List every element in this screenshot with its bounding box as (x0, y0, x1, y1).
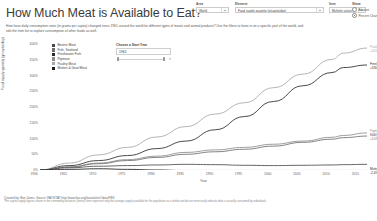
filter-bar: Area World Element Food supply quantity … (196, 2, 377, 24)
show-option-percent-change-label: Percent Change (359, 14, 377, 18)
x-axis-tick-label: 1970 (89, 172, 96, 176)
series-annotation-label: Fish, Seafood (370, 133, 377, 137)
chevron-down-icon[interactable] (221, 8, 228, 12)
y-axis-tick-label: 350% (30, 58, 38, 62)
show-option-amount[interactable]: Amount (352, 7, 377, 12)
radio-icon-percent-change[interactable] (352, 13, 357, 18)
x-axis-tick-label: 1980 (147, 172, 154, 176)
chart-lines (40, 38, 367, 170)
x-axis-tick-label: 1985 (176, 172, 183, 176)
series-annotation: Poultry Meat+422.3% (370, 45, 377, 53)
filter-element-value: Food supply quantity (g/capita/day) (238, 9, 286, 13)
x-axis-tick-label: 1995 (235, 172, 242, 176)
series-annotation: Fish, Seafood+107.6% (370, 133, 377, 141)
footer-note: *Per capita supply figures shown in the … (4, 200, 304, 204)
x-axis-tick-label: 1990 (206, 172, 213, 176)
plot-area: Poultry Meat+422.3%Freshwater Fish+330.9… (40, 38, 367, 170)
x-axis-tick-label: 1975 (118, 172, 125, 176)
meat-consumption-dashboard: How Much Meat is Available to Eat? How h… (0, 0, 377, 221)
series-annotation: Mutton & Goat Meat-2.4% (370, 167, 377, 175)
filter-area-label: Area (196, 2, 229, 6)
series-line[interactable] (40, 48, 367, 170)
x-axis-title: Year (40, 179, 367, 183)
series-annotation-value: +330.9% (370, 66, 377, 70)
show-radio-group: Show Amount Percent Change (352, 2, 377, 18)
x-axis-tick-label: 2005 (293, 172, 300, 176)
x-axis-tick-label: 2000 (264, 172, 271, 176)
chevron-down-icon[interactable] (316, 8, 323, 12)
line-chart: Food supply quantity (g/capita/day) 0%50… (0, 38, 377, 188)
y-axis-ticks: 0%50%100%150%200%250%300%350%400% (0, 38, 38, 170)
y-axis-tick-label: 400% (30, 42, 38, 46)
page-title: How Much Meat is Available to Eat? (6, 6, 202, 20)
series-annotation-label: Freshwater Fish (370, 62, 377, 66)
series-annotation-value: +107.6% (370, 137, 377, 141)
filter-element-select[interactable]: Food supply quantity (g/capita/day) (235, 7, 324, 13)
filter-element-label: Element (235, 2, 324, 6)
y-axis-tick-label: 300% (30, 74, 38, 78)
show-label: Show (352, 2, 377, 6)
filter-item-value: Multiple values (332, 9, 352, 13)
x-axis-tick-label: 1960 (31, 172, 38, 176)
series-annotation-label: Poultry Meat (370, 45, 377, 49)
series-annotation-value: -2.4% (370, 171, 377, 175)
show-option-amount-label: Amount (359, 8, 370, 12)
y-axis-tick-label: 250% (30, 90, 38, 94)
filter-area: Area World (196, 2, 229, 13)
y-axis-tick-label: 100% (30, 137, 38, 141)
footer: Created by: Ben Jones. Source: FAOSTAT h… (4, 196, 304, 204)
filter-area-value: World (199, 9, 207, 13)
x-axis-tick-label: 2010 (322, 172, 329, 176)
radio-icon-amount[interactable] (352, 7, 357, 12)
show-option-percent-change[interactable]: Percent Change (352, 13, 377, 18)
page-subtitle: How have daily consumption rates (in gra… (6, 24, 306, 34)
series-annotation-value: +422.3% (370, 49, 377, 53)
series-annotation: Freshwater Fish+330.9% (370, 62, 377, 70)
filter-area-select[interactable]: World (196, 7, 229, 13)
y-axis-tick-label: 200% (30, 105, 38, 109)
y-axis-tick-label: 150% (30, 121, 38, 125)
y-axis-tick-label: 50% (31, 152, 38, 156)
filter-element: Element Food supply quantity (g/capita/d… (235, 2, 324, 13)
x-axis-tick-label: 1965 (60, 172, 67, 176)
x-axis-tick-label: 2015 (352, 172, 359, 176)
